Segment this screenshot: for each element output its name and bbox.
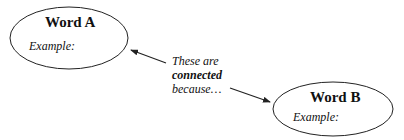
connector-line-1: These are <box>172 54 222 68</box>
arrow-to-word-b <box>230 88 270 102</box>
connector-label: These are connected because… <box>172 54 222 96</box>
connector-line-3: because… <box>172 82 222 96</box>
node-word-a-example-label: Example: <box>29 39 75 54</box>
node-word-b-title: Word B <box>310 89 360 106</box>
arrow-to-word-a <box>131 50 166 63</box>
node-word-a-title: Word A <box>45 14 95 31</box>
node-word-b-example-label: Example: <box>293 110 339 125</box>
connector-line-2: connected <box>172 68 222 82</box>
